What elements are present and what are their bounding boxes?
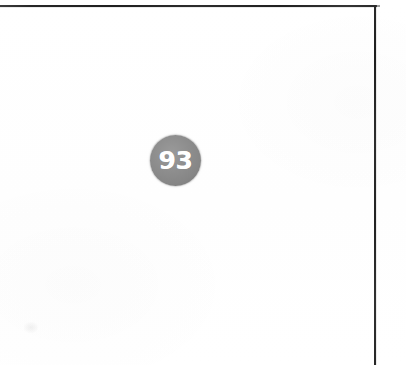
- score-badge-value: 93: [159, 148, 193, 173]
- right-border-rule: [374, 5, 376, 365]
- top-border-rule: [0, 5, 377, 7]
- paper-texture: [0, 0, 406, 365]
- top-border-rule-corner-stub: [376, 5, 380, 7]
- page-canvas: 93: [0, 0, 406, 365]
- scan-speck-artifact: [24, 322, 38, 333]
- score-badge: 93: [150, 135, 201, 186]
